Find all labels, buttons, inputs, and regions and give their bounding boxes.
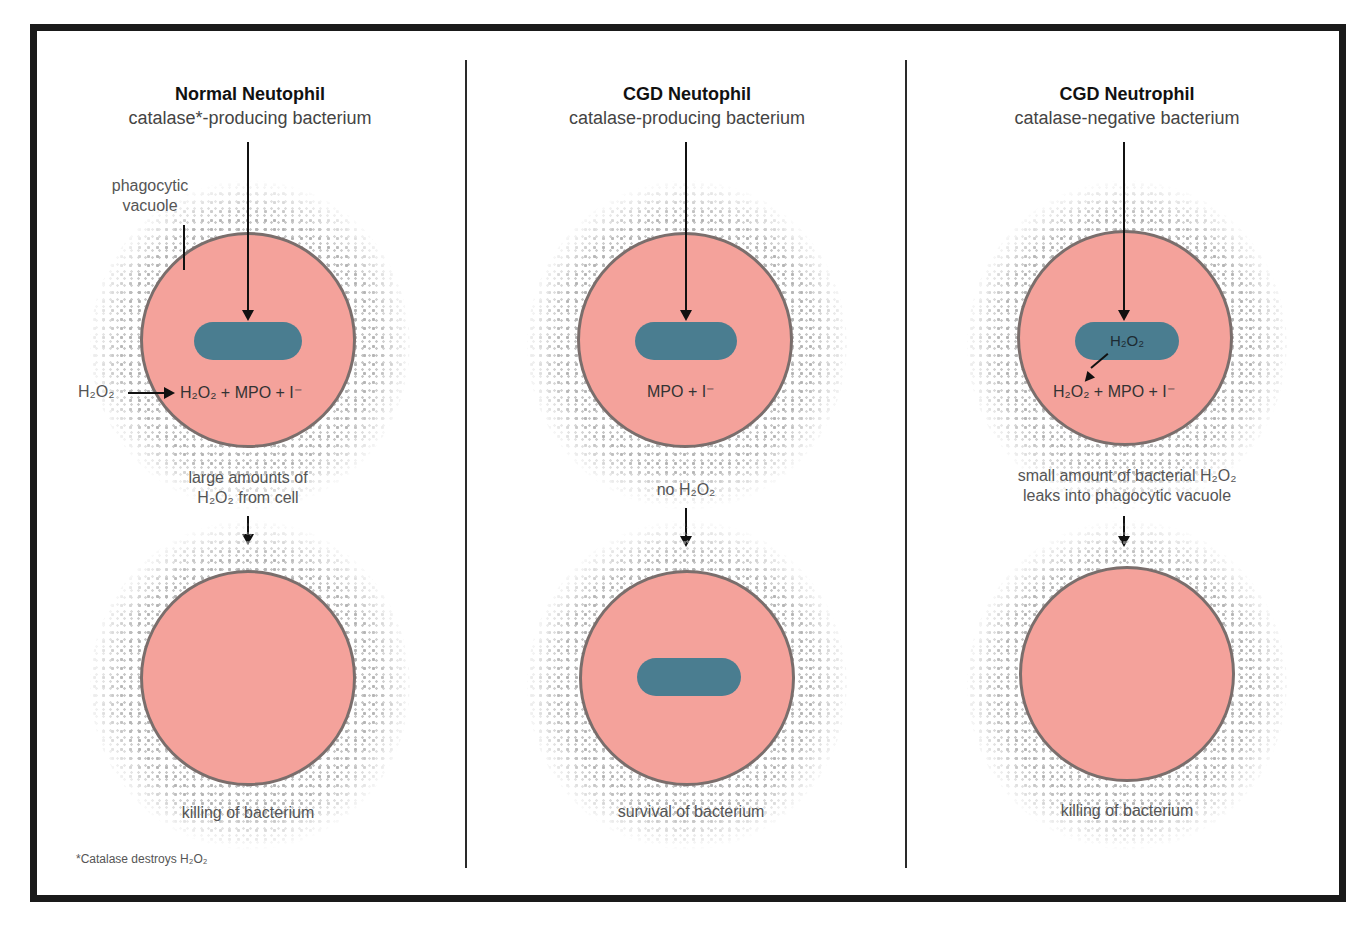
entry-arrow-shaft (685, 142, 687, 312)
entry-arrow-head-icon (242, 310, 254, 321)
bacterium (194, 322, 302, 360)
panel-subtitle: catalase-negative bacterium (907, 108, 1347, 129)
panel-cgd-catalase-negative: CGD Neutrophil catalase-negative bacteri… (907, 30, 1347, 890)
mid-label: small amount of bacterial H₂O₂ leaks int… (967, 466, 1287, 506)
outcome-label: killing of bacterium (118, 803, 378, 823)
external-h2o2: H₂O₂ (78, 383, 114, 401)
vacuole-label: phagocytic vacuole (100, 176, 200, 216)
panel-normal-neutrophil: Normal Neutophil catalase*-producing bac… (30, 30, 470, 890)
neutrophil-cell-result (1019, 566, 1235, 782)
vacuole-pointer-line (183, 225, 185, 270)
reaction-text: MPO + I⁻ (647, 382, 714, 401)
outcome-label: killing of bacterium (997, 801, 1257, 821)
mid-label: large amounts of H₂O₂ from cell (148, 468, 348, 508)
panel-title: CGD Neutophil (467, 84, 907, 105)
footnote: *Catalase destroys H₂O₂ (76, 852, 207, 866)
mid-label: no H₂O₂ (586, 480, 786, 500)
panel-cgd-catalase-positive: CGD Neutophil catalase-producing bacteri… (467, 30, 907, 890)
panel-title: CGD Neutrophil (907, 84, 1347, 105)
reaction-text: H₂O₂ + MPO + I⁻ (1053, 382, 1175, 401)
entry-arrow-shaft (247, 142, 249, 312)
outcome-label: survival of bacterium (561, 802, 821, 822)
panel-subtitle: catalase-producing bacterium (467, 108, 907, 129)
bacterium: H₂O₂ (1075, 322, 1179, 360)
h2o2-arrow-head-icon (164, 387, 175, 399)
bacterium (635, 322, 737, 360)
entry-arrow-head-icon (1118, 310, 1130, 321)
entry-arrow-head-icon (680, 310, 692, 321)
h2o2-arrow-shaft (128, 392, 164, 394)
reaction-text: H₂O₂ + MPO + I⁻ (180, 383, 302, 402)
panel-title: Normal Neutophil (30, 84, 470, 105)
panel-subtitle: catalase*-producing bacterium (30, 108, 470, 129)
surviving-bacterium (637, 658, 741, 696)
neutrophil-cell-result (140, 570, 356, 786)
entry-arrow-shaft (1123, 142, 1125, 312)
